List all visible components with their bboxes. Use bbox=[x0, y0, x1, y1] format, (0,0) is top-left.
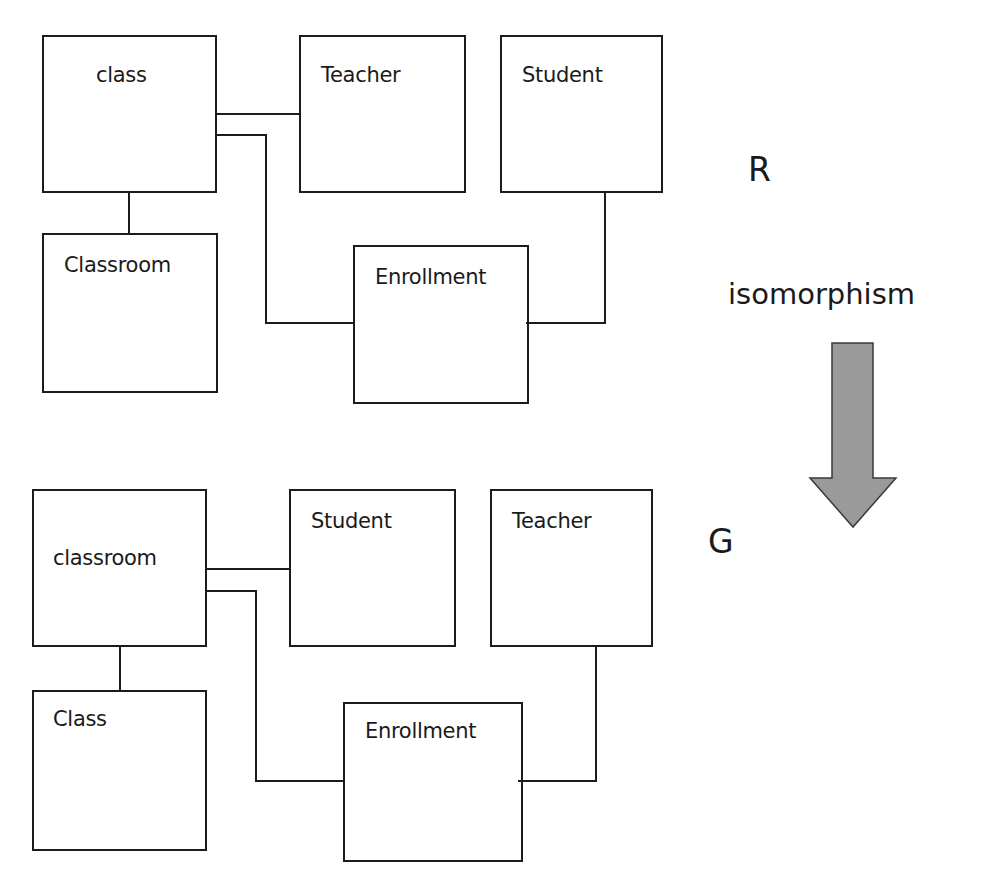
entity-box-class: class bbox=[42, 35, 217, 193]
connector-teacher-enrollment-b bbox=[518, 780, 597, 782]
entity-label: Teacher bbox=[321, 63, 400, 87]
entity-box-classroom: Classroom bbox=[42, 233, 218, 393]
entity-box-student: Student bbox=[289, 489, 456, 647]
connector-classroom-student bbox=[206, 568, 290, 570]
entity-label: Teacher bbox=[512, 509, 591, 533]
entity-box-student: Student bbox=[500, 35, 663, 193]
entity-box-enrollment: Enrollment bbox=[353, 245, 529, 404]
entity-label: Student bbox=[522, 63, 603, 87]
connector-class-enrollment-b bbox=[265, 134, 267, 324]
entity-box-teacher: Teacher bbox=[299, 35, 466, 193]
down-arrow-icon bbox=[805, 340, 901, 532]
entity-box-classroom: classroom bbox=[32, 489, 207, 647]
connector-classroom-enrollment-c bbox=[255, 780, 344, 782]
connector-class-enrollment-c bbox=[265, 322, 354, 324]
entity-label: Student bbox=[311, 509, 392, 533]
connector-class-classroom bbox=[128, 192, 130, 234]
connector-class-teacher bbox=[216, 113, 300, 115]
entity-box-enrollment: Enrollment bbox=[343, 702, 523, 862]
diagram-label-g: G bbox=[708, 522, 734, 561]
connector-class-enrollment-a bbox=[216, 134, 267, 136]
entity-label: Enrollment bbox=[375, 265, 486, 289]
connector-classroom-enrollment-b bbox=[255, 590, 257, 782]
entity-label: Enrollment bbox=[365, 719, 476, 743]
entity-label: Classroom bbox=[64, 253, 171, 277]
connector-teacher-enrollment-a bbox=[595, 646, 597, 782]
diagram-label-r: R bbox=[748, 150, 771, 189]
connector-student-enrollment-b bbox=[526, 322, 606, 324]
connector-classroom-enrollment-a bbox=[206, 590, 257, 592]
entity-label: classroom bbox=[53, 546, 157, 570]
isomorphism-label: isomorphism bbox=[728, 277, 915, 311]
entity-box-teacher: Teacher bbox=[490, 489, 653, 647]
entity-label: Class bbox=[53, 707, 107, 731]
connector-classroom-class bbox=[119, 646, 121, 691]
entity-label: class bbox=[96, 63, 147, 87]
connector-student-enrollment-a bbox=[604, 192, 606, 324]
entity-box-class: Class bbox=[32, 690, 207, 851]
